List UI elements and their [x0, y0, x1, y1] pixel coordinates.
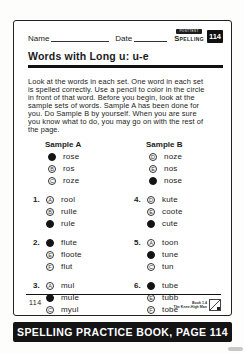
- answer-bubble[interactable]: F: [147, 220, 155, 228]
- date-blank-field[interactable]: [134, 33, 167, 42]
- option-word: rool: [61, 195, 75, 204]
- answer-option: A rose: [48, 151, 129, 163]
- option-word: floote: [61, 250, 82, 259]
- option-word: nos: [164, 164, 178, 173]
- subject-badge-group: POSTTEST Spelling 114: [174, 29, 223, 43]
- answer-bubble[interactable]: F: [149, 177, 157, 185]
- answer-option: B rulle: [46, 206, 77, 218]
- answer-bubble[interactable]: C: [46, 220, 54, 228]
- answer-option: F cute: [147, 218, 183, 230]
- option-word: roze: [63, 176, 79, 185]
- option-word: flute: [61, 238, 77, 247]
- answer-bubble[interactable]: B: [147, 251, 155, 259]
- answer-option: A rool: [46, 194, 77, 206]
- answer-option: A mul: [46, 280, 79, 292]
- option-word: tube: [162, 281, 178, 290]
- answer-option: B tune: [147, 249, 178, 261]
- sample-b-label: Sample B: [146, 139, 223, 150]
- option-word: cute: [162, 219, 178, 228]
- answer-bubble[interactable]: D: [147, 196, 155, 204]
- answer-bubble[interactable]: E: [46, 251, 54, 259]
- question-item-5: 5. A toon B tune C tun: [129, 237, 223, 273]
- name-label: Name: [28, 34, 49, 43]
- option-word: rule: [61, 219, 75, 228]
- option-word: nose: [164, 176, 182, 185]
- item-number: 2.: [33, 237, 46, 273]
- answer-option: C rule: [46, 218, 77, 230]
- scan-artifact: [228, 347, 243, 351]
- question-item-2: 2. D flute E floote F flut: [28, 237, 129, 273]
- option-word: rose: [63, 152, 79, 161]
- option-word: tune: [162, 250, 178, 259]
- answer-option: D noze: [149, 151, 223, 163]
- instructions-text: Look at the words in each set. One word …: [28, 78, 209, 134]
- samples-section: Sample A A rose B ros C roze Sample B: [28, 139, 223, 187]
- option-word: rulle: [61, 207, 77, 216]
- sample-a-label: Sample A: [45, 139, 129, 150]
- answer-bubble[interactable]: A: [46, 196, 54, 204]
- answer-option: A toon: [147, 237, 178, 249]
- option-word: ros: [63, 164, 75, 173]
- answer-bubble[interactable]: B: [48, 165, 56, 173]
- book-ref-line2: The Knee-High Man: [173, 305, 207, 309]
- date-label: Date: [115, 34, 132, 43]
- answer-option: C tun: [147, 261, 178, 273]
- answer-bubble[interactable]: D: [149, 153, 157, 161]
- book-reference: Book 1.4 The Knee-High Man: [173, 301, 207, 309]
- answer-option: F flut: [46, 261, 82, 273]
- sample-a-block: Sample A A rose B ros C roze: [28, 139, 129, 187]
- answer-bubble[interactable]: E: [149, 165, 157, 173]
- page-number-badge: 114: [207, 30, 223, 43]
- subject-label: Spelling: [174, 34, 204, 43]
- answer-option: E nos: [149, 163, 223, 175]
- name-blank-field[interactable]: [51, 33, 109, 42]
- item-number: 4.: [134, 194, 147, 230]
- title-rule: [28, 65, 223, 68]
- worksheet-footer: 114 Book 1.4 The Knee-High Man: [26, 294, 221, 311]
- question-item-4: 4. D kute E coote F cute: [129, 194, 223, 230]
- answer-option: F nose: [149, 175, 223, 187]
- option-word: flut: [61, 262, 72, 271]
- worksheet-header: Name Date POSTTEST Spelling 114: [28, 29, 223, 43]
- question-item-1: 1. A rool B rulle C rule: [28, 194, 129, 230]
- answer-option: E floote: [46, 249, 82, 261]
- answer-option: B ros: [48, 163, 129, 175]
- item-number: 5.: [134, 237, 147, 273]
- option-word: mul: [61, 281, 75, 290]
- answer-bubble[interactable]: A: [48, 153, 56, 161]
- answer-bubble[interactable]: A: [46, 282, 54, 290]
- footer-page-number: 114: [29, 299, 42, 306]
- answer-bubble[interactable]: F: [46, 263, 54, 271]
- answer-option: D tube: [147, 280, 178, 292]
- answer-bubble[interactable]: D: [46, 239, 54, 247]
- option-word: toon: [162, 238, 178, 247]
- answer-bubble[interactable]: D: [147, 282, 155, 290]
- option-word: tun: [162, 262, 174, 271]
- answer-bubble[interactable]: B: [46, 208, 54, 216]
- option-word: kute: [162, 195, 178, 204]
- page-title: Words with Long u: u-e: [28, 50, 223, 62]
- sample-b-block: Sample B D noze E nos F nose: [129, 139, 223, 187]
- item-number: 1.: [33, 194, 46, 230]
- answer-bubble[interactable]: E: [147, 208, 155, 216]
- publisher-logo-icon: [209, 299, 221, 311]
- worksheet-page: Name Date POSTTEST Spelling 114 Words wi…: [13, 20, 232, 316]
- answer-option: D flute: [46, 237, 82, 249]
- answer-option: D kute: [147, 194, 183, 206]
- answer-bubble[interactable]: A: [147, 239, 155, 247]
- answer-bubble[interactable]: C: [48, 177, 56, 185]
- answer-bubble[interactable]: C: [147, 263, 155, 271]
- option-word: coote: [162, 207, 183, 216]
- bottom-banner: SPELLING PRACTICE BOOK, PAGE 114: [13, 322, 232, 342]
- answer-option: E coote: [147, 206, 183, 218]
- option-word: noze: [164, 152, 182, 161]
- answer-option: C roze: [48, 175, 129, 187]
